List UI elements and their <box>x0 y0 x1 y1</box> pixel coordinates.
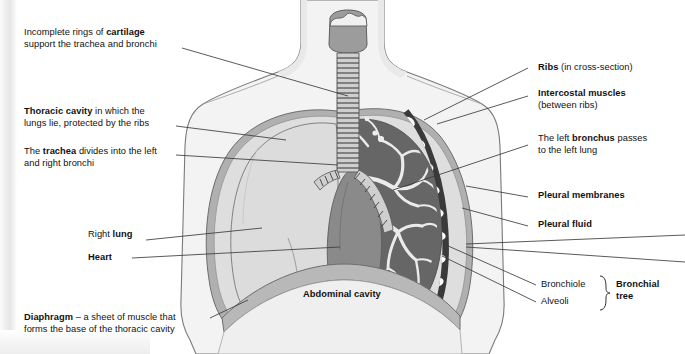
label-intercostal-muscles: Intercostal muscles (between ribs) <box>538 88 626 111</box>
thoracic-line1-plain: in which the <box>92 106 144 116</box>
label-heart: Heart <box>88 252 112 264</box>
figure-canvas: Incomplete rings of cartilage support th… <box>0 0 685 354</box>
trachea-line2: and right bronchi <box>24 158 157 170</box>
ribs-bold: Ribs <box>538 62 558 72</box>
bronchial-tree-line2: tree <box>616 291 633 301</box>
pleural-fluid-bold: Pleural fluid <box>538 219 592 229</box>
bronchial-tree-brace <box>600 276 610 310</box>
cartilage-line1-plain: Incomplete rings of <box>24 27 106 37</box>
label-thoracic-cavity: Thoracic cavity in which the lungs lie, … <box>24 106 149 129</box>
label-right-lung: Right lung <box>88 229 132 241</box>
left-bronchus-line1-bold: bronchus <box>572 133 615 143</box>
right-lung-pre: Right <box>88 229 113 239</box>
cartilage-line1-bold: cartilage <box>106 27 145 37</box>
label-cartilage: Incomplete rings of cartilage support th… <box>24 27 157 50</box>
label-trachea: The trachea divides into the left and ri… <box>24 146 157 169</box>
label-bronchiole: Bronchiole <box>541 279 585 291</box>
label-alveoli: Alveoli <box>541 296 569 308</box>
abdominal-cavity-bold: Abdominal cavity <box>303 289 381 299</box>
right-lung-bold: lung <box>113 229 133 239</box>
intercostal-line1-bold: Intercostal muscles <box>538 88 626 98</box>
trachea-line1-bold: trachea <box>43 146 76 156</box>
label-pleural-fluid: Pleural fluid <box>538 219 592 231</box>
heart-bold: Heart <box>88 252 112 262</box>
label-pleural-membranes: Pleural membranes <box>538 190 625 202</box>
thoracic-line2: lungs lie, protected by the ribs <box>24 118 149 130</box>
intercostal-line2: (between ribs) <box>538 100 626 112</box>
trachea-line1-pre: The <box>24 146 43 156</box>
label-abdominal-cavity: Abdominal cavity <box>303 289 381 301</box>
diaphragm-line1-plain: – a sheet of muscle that <box>73 312 176 322</box>
bronchiole-plain: Bronchiole <box>541 279 585 289</box>
ribs-plain: (in cross-section) <box>558 62 632 72</box>
thorax-diagram-artwork <box>0 0 685 354</box>
label-left-bronchus: The left bronchus passes to the left lun… <box>538 133 647 156</box>
left-bronchus-line2: to the left lung <box>538 145 647 157</box>
trachea-line1-post: divides into the left <box>76 146 157 156</box>
label-bronchial-tree: Bronchial tree <box>616 279 659 302</box>
pleural-membranes-bold: Pleural membranes <box>538 190 625 200</box>
alveoli-plain: Alveoli <box>541 296 569 306</box>
label-diaphragm: Diaphragm – a sheet of muscle that forms… <box>24 312 176 335</box>
diaphragm-line2: forms the base of the thoracic cavity <box>24 324 176 336</box>
bronchial-tree-line1: Bronchial <box>616 279 659 289</box>
thoracic-line1-bold: Thoracic cavity <box>24 106 92 116</box>
cartilage-line2: support the trachea and bronchi <box>24 39 157 51</box>
left-bronchus-line1-pre: The left <box>538 133 572 143</box>
diaphragm-line1-bold: Diaphragm <box>24 312 73 322</box>
left-bronchus-line1-post: passes <box>615 133 647 143</box>
label-ribs: Ribs (in cross-section) <box>538 62 633 74</box>
